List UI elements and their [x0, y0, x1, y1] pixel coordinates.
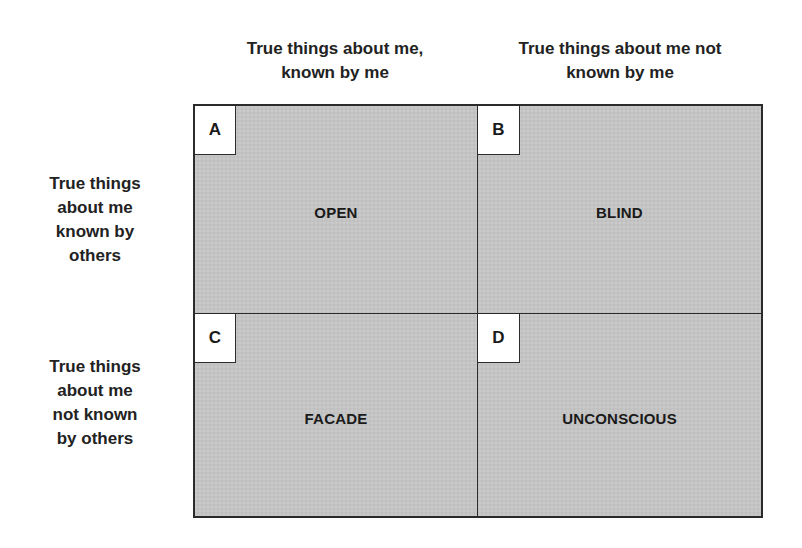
quadrant-label: FACADE: [195, 410, 477, 427]
quadrant-blind: B BLIND: [478, 106, 761, 314]
column-header-known-by-me: True things about me, known by me: [193, 37, 477, 85]
row-header-line: not known: [10, 403, 180, 427]
quadrant-letter-box: D: [478, 314, 520, 363]
column-header-not-known-by-me: True things about me not known by me: [470, 37, 770, 85]
row-header-known-by-others: True things about me known by others: [10, 172, 180, 268]
quadrant-label: BLIND: [478, 204, 761, 221]
row-header-line: about me: [10, 379, 180, 403]
quadrant-letter-box: A: [195, 106, 236, 155]
row-header-line: True things: [10, 172, 180, 196]
row-header-line: by others: [10, 427, 180, 451]
row-header-line: others: [10, 244, 180, 268]
quadrant-label: UNCONSCIOUS: [478, 410, 761, 427]
column-header-line-2: known by me: [281, 63, 389, 82]
quadrant-facade: C FACADE: [195, 314, 478, 516]
row-header-not-known-by-others: True things about me not known by others: [10, 355, 180, 451]
row-header-line: about me: [10, 196, 180, 220]
quadrant-label: OPEN: [195, 204, 477, 221]
quadrant-open: A OPEN: [195, 106, 478, 314]
quadrant-letter-box: C: [195, 314, 236, 363]
row-header-line: known by: [10, 220, 180, 244]
johari-grid: A OPEN B BLIND C FACADE D UNCONSCIOUS: [193, 104, 763, 518]
row-header-line: True things: [10, 355, 180, 379]
quadrant-unconscious: D UNCONSCIOUS: [478, 314, 761, 516]
column-header-line-2: known by me: [566, 63, 674, 82]
column-header-line-1: True things about me not: [518, 39, 721, 58]
column-header-line-1: True things about me,: [247, 39, 424, 58]
quadrant-letter-box: B: [478, 106, 520, 155]
